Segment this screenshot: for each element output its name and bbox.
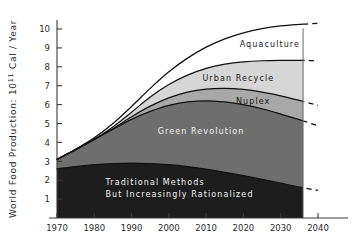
y-tick-label-3: 3 (45, 157, 50, 167)
x-tick-label-2030: 2030 (270, 223, 292, 233)
y-tick-label-1: 1 (45, 194, 50, 204)
x-tick-label-2040: 2040 (307, 223, 329, 233)
x-tick-label-1970: 1970 (46, 223, 68, 233)
band-label-aquaculture: Aquaculture (240, 40, 300, 49)
y-tick-label-2: 2 (45, 175, 50, 185)
food-production-area-chart: 1234567891019701980199020002010202020302… (0, 0, 354, 247)
chart-container: 1234567891019701980199020002010202020302… (0, 0, 354, 247)
y-tick-label-6: 6 (45, 100, 50, 110)
x-tick-label-2000: 2000 (158, 223, 180, 233)
band-label-traditional-methods: Traditional Methods (104, 178, 204, 187)
stacked-bands (57, 23, 318, 218)
x-tick-label-2010: 2010 (195, 223, 217, 233)
band-label-but-increasingly-rationalized: But Increasingly Rationalized (105, 190, 253, 199)
y-tick-label-9: 9 (45, 43, 50, 53)
y-tick-label-8: 8 (45, 62, 50, 72)
band-label-nuplex: Nuplex (236, 97, 270, 106)
x-tick-label-2020: 2020 (233, 223, 255, 233)
y-tick-label-5: 5 (45, 119, 50, 129)
y-axis-title: World Food Production: 1011 Cal / Year (7, 20, 18, 218)
y-tick-label-7: 7 (45, 81, 50, 91)
x-tick-label-1980: 1980 (83, 223, 105, 233)
x-tick-label-1990: 1990 (121, 223, 143, 233)
y-tick-label-10: 10 (39, 24, 50, 34)
band-label-green-revolution: Green Revolution (158, 127, 245, 136)
band-label-urban-recycle: Urban Recycle (202, 74, 274, 83)
y-tick-label-4: 4 (45, 138, 50, 148)
